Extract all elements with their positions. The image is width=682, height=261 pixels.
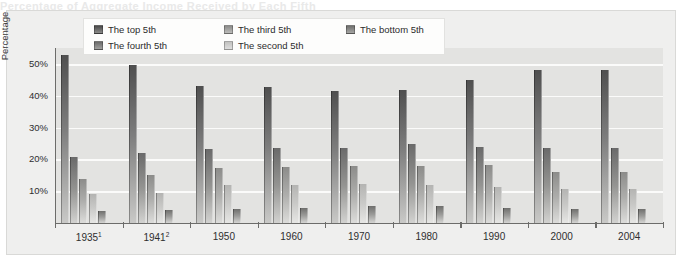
bar[interactable]: [426, 185, 434, 223]
bar[interactable]: [399, 90, 407, 223]
bar[interactable]: [350, 166, 358, 223]
bar[interactable]: [98, 211, 106, 223]
bar-fill: [205, 149, 213, 223]
x-axis-tick-label: 19412: [143, 231, 169, 243]
bar-fill: [156, 193, 164, 223]
bar[interactable]: [340, 148, 348, 223]
bar-fill: [138, 153, 146, 223]
bar[interactable]: [129, 65, 137, 223]
legend-item-third-5th[interactable]: The third 5th: [224, 24, 291, 35]
y-axis-title: Percentage: [0, 0, 10, 96]
bar-group: [61, 48, 106, 223]
bar[interactable]: [408, 144, 416, 223]
legend-swatch-bottom-5th: [346, 25, 355, 34]
bar-fill: [350, 166, 358, 223]
bar[interactable]: [61, 55, 69, 223]
bar-group: [534, 48, 579, 223]
bar[interactable]: [264, 87, 272, 223]
bar-fill: [436, 206, 444, 223]
x-axis-tick: [528, 222, 529, 228]
bar[interactable]: [138, 153, 146, 223]
bar-fill: [417, 166, 425, 223]
bar-group: [196, 48, 241, 223]
legend-item-second-5th[interactable]: The second 5th: [224, 40, 304, 51]
chart-legend: The top 5th The fourth 5th The third 5th…: [83, 18, 445, 55]
legend-swatch-second-5th: [224, 41, 233, 50]
bar[interactable]: [368, 206, 376, 224]
bar[interactable]: [291, 185, 299, 223]
bar-fill: [399, 90, 407, 223]
bar[interactable]: [620, 172, 628, 223]
bar[interactable]: [215, 168, 223, 223]
bar[interactable]: [571, 209, 579, 223]
bar-fill: [629, 189, 637, 223]
legend-swatch-fourth-5th: [94, 41, 103, 50]
bar[interactable]: [466, 80, 474, 223]
bar[interactable]: [331, 91, 339, 223]
bar-fill: [233, 209, 241, 223]
bar[interactable]: [503, 208, 511, 223]
x-axis-tick: [190, 222, 191, 228]
bar[interactable]: [638, 209, 646, 223]
bar-fill: [147, 175, 155, 223]
x-axis-tick: [393, 222, 394, 228]
legend-item-bottom-5th[interactable]: The bottom 5th: [346, 24, 424, 35]
bar-fill: [340, 148, 348, 223]
bar[interactable]: [629, 189, 637, 223]
bar[interactable]: [205, 149, 213, 223]
bar[interactable]: [273, 148, 281, 223]
bar[interactable]: [417, 166, 425, 223]
bar[interactable]: [233, 209, 241, 223]
bar[interactable]: [165, 210, 173, 223]
bar[interactable]: [196, 86, 204, 223]
x-axis-tick-label: 1960: [280, 231, 302, 242]
bar[interactable]: [611, 148, 619, 223]
bar-fill: [503, 208, 511, 223]
bar[interactable]: [224, 185, 232, 223]
bar-group: [601, 48, 646, 223]
bar-fill: [224, 185, 232, 223]
bar[interactable]: [89, 194, 97, 223]
bar-fill: [476, 147, 484, 223]
y-axis-tick-label: 10%: [4, 185, 48, 196]
legend-item-fourth-5th[interactable]: The fourth 5th: [94, 40, 167, 51]
bar[interactable]: [79, 179, 87, 223]
x-axis-tick: [325, 222, 326, 228]
bar[interactable]: [282, 167, 290, 223]
bar[interactable]: [552, 172, 560, 223]
legend-label-second-5th: The second 5th: [238, 40, 304, 51]
bar[interactable]: [534, 70, 542, 223]
bar[interactable]: [485, 165, 493, 223]
x-axis-tick-label: 1950: [213, 231, 235, 242]
bar-fill: [264, 87, 272, 223]
x-axis-tick-label: 2004: [618, 231, 640, 242]
legend-swatch-top-5th: [94, 25, 103, 34]
x-axis-tick: [595, 222, 596, 228]
x-axis-tick-label: 19351: [76, 231, 102, 243]
bar[interactable]: [543, 148, 551, 223]
bar[interactable]: [561, 189, 569, 223]
x-axis-tick-label: 1980: [415, 231, 437, 242]
bar[interactable]: [156, 193, 164, 223]
y-axis-tick-label: 40%: [4, 90, 48, 101]
bar-fill: [426, 185, 434, 223]
bar[interactable]: [601, 70, 609, 223]
bar-fill: [196, 86, 204, 223]
bar-fill: [70, 157, 78, 223]
bar[interactable]: [359, 184, 367, 223]
bar[interactable]: [147, 175, 155, 223]
bar-fill: [552, 172, 560, 223]
bar[interactable]: [494, 187, 502, 223]
bar[interactable]: [70, 157, 78, 223]
bar-fill: [368, 206, 376, 224]
bar-fill: [300, 208, 308, 223]
bar[interactable]: [300, 208, 308, 223]
bar-fill: [215, 168, 223, 223]
bar-group: [466, 48, 511, 223]
bar-fill: [485, 165, 493, 223]
legend-item-top-5th[interactable]: The top 5th: [94, 24, 156, 35]
bar[interactable]: [436, 206, 444, 223]
bar-fill: [561, 189, 569, 223]
bar[interactable]: [476, 147, 484, 223]
bar-fill: [534, 70, 542, 223]
